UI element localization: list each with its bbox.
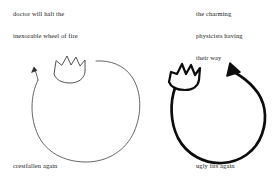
right-arrowhead-icon [227, 63, 240, 76]
caption-right-line-3: their way [196, 55, 221, 62]
right-loop-figure [0, 0, 279, 183]
diagram-canvas: doctor will halt the inexorable wheel of… [0, 0, 279, 183]
left-arrowhead-icon [32, 67, 38, 73]
caption-right-line-2: physicists having [196, 33, 243, 40]
caption-left-line-2: inexorable wheel of fire [13, 33, 78, 40]
caption-left-line-1: doctor will halt the [13, 11, 64, 18]
caption-right-line-4: ugly fits again [196, 163, 235, 170]
caption-right-line-1: the charming [196, 11, 231, 18]
caption-left-line-3: crestfallen again [13, 163, 57, 170]
left-loop-path [32, 61, 140, 162]
left-crown-icon [54, 56, 85, 83]
right-crown-icon [169, 64, 200, 90]
right-loop-path [172, 72, 265, 163]
left-arrow-tail [34, 68, 38, 80]
left-loop-figure [0, 0, 279, 183]
